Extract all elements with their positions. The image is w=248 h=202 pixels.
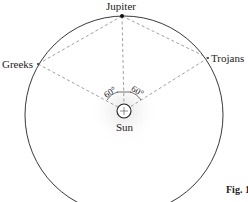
sun-label: Sun	[116, 122, 133, 133]
trojans-marker	[207, 57, 209, 59]
greeks-label: Greeks	[2, 59, 33, 70]
greeks-marker	[37, 63, 39, 65]
orbit-diagram	[0, 0, 248, 202]
jupiter-label: Jupiter	[106, 1, 136, 12]
jupiter-dot	[120, 14, 124, 18]
figure-caption: Fig. 1	[226, 185, 248, 195]
trojans-label: Trojans	[211, 53, 244, 64]
